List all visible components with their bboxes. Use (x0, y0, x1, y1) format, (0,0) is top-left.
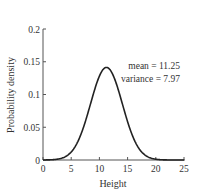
annotation-variance: variance = 7.97 (121, 74, 180, 84)
x-tick-label: 10 (95, 164, 105, 174)
x-tick-label: 15 (123, 164, 133, 174)
x-tick-label: 5 (69, 164, 74, 174)
annotation-mean: mean = 11.25 (128, 61, 180, 71)
x-tick-label: 25 (179, 164, 189, 174)
y-tick-label: 0.15 (23, 57, 40, 67)
y-axis-label: Probability density (5, 57, 16, 133)
y-tick-label: 0.2 (28, 25, 40, 35)
y-tick-label: 0 (35, 156, 40, 166)
y-tick-label: 0.1 (28, 90, 40, 100)
y-tick-label: 0.05 (23, 123, 40, 133)
chart: 00.050.10.150.2 0510152025 Height Probab… (0, 0, 202, 195)
x-axis-label: Height (99, 178, 126, 189)
x-tick-label: 0 (41, 164, 46, 174)
x-tick-label: 20 (151, 164, 161, 174)
